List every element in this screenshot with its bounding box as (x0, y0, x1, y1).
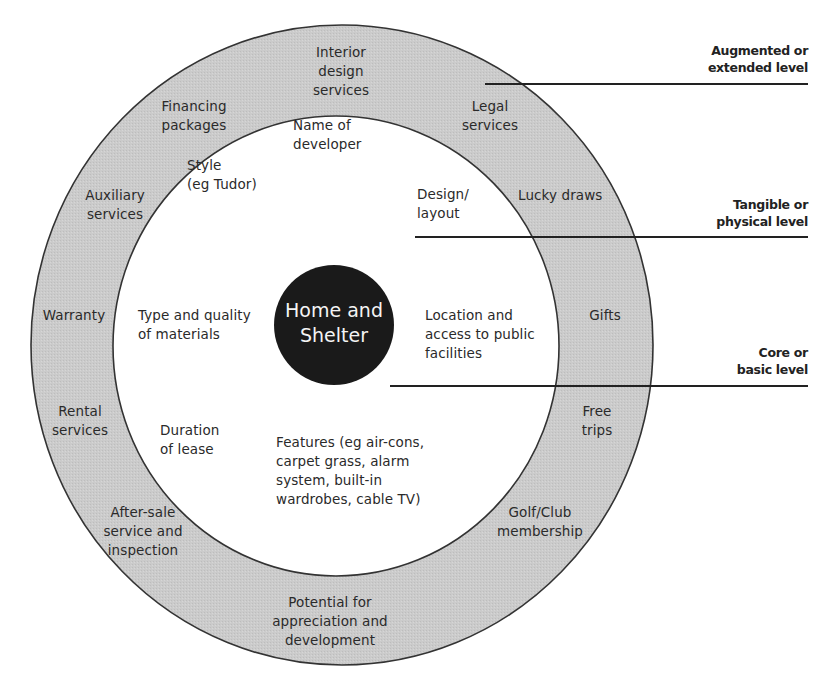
augmented-item-after-sale-service: After-sale service and inspection (103, 503, 182, 560)
tangible-item-location-access: Location and access to public facilities (425, 306, 535, 363)
item-line: Lucky draws (518, 186, 602, 205)
product-levels-diagram: Home and Shelter Name of developer Style… (0, 0, 838, 685)
augmented-item-financing-packages: Financing packages (161, 97, 226, 135)
item-line: membership (497, 522, 583, 541)
level-line: Augmented or (708, 42, 808, 59)
item-line: development (272, 631, 388, 650)
augmented-item-auxiliary-services: Auxiliary services (85, 186, 145, 224)
tangible-item-features: Features (eg air-cons, carpet grass, ala… (276, 433, 424, 509)
item-line: Golf/Club (497, 503, 583, 522)
item-line: inspection (103, 541, 182, 560)
tangible-item-style: Style (eg Tudor) (187, 156, 257, 194)
item-line: After-sale (103, 503, 182, 522)
augmented-item-lucky-draws: Lucky draws (518, 186, 602, 205)
augmented-item-potential-appreciation: Potential for appreciation and developme… (272, 593, 388, 650)
item-line: facilities (425, 344, 535, 363)
item-line: Type and quality (138, 306, 251, 325)
diagram-shapes (0, 0, 838, 685)
level-line: Tangible or (716, 196, 808, 213)
augmented-item-legal-services: Legal services (462, 97, 518, 135)
item-line: appreciation and (272, 612, 388, 631)
level-label-tangible: Tangible or physical level (716, 196, 808, 230)
tangible-item-name-of-developer: Name of developer (293, 116, 362, 154)
level-line: Core or (737, 344, 808, 361)
core-label: Home and Shelter (285, 298, 383, 348)
item-line: Interior (313, 43, 369, 62)
item-line: system, built-in (276, 471, 424, 490)
item-line: of lease (160, 440, 219, 459)
item-line: services (85, 205, 145, 224)
augmented-item-golf-club-membership: Golf/Club membership (497, 503, 583, 541)
item-line: Duration (160, 421, 219, 440)
level-label-augmented: Augmented or extended level (708, 42, 808, 76)
level-label-core: Core or basic level (737, 344, 808, 378)
item-line: carpet grass, alarm (276, 452, 424, 471)
item-line: packages (161, 116, 226, 135)
item-line: Design/ (417, 185, 469, 204)
item-line: services (462, 116, 518, 135)
item-line: design (313, 62, 369, 81)
item-line: Rental (52, 402, 108, 421)
item-line: (eg Tudor) (187, 175, 257, 194)
augmented-item-gifts: Gifts (589, 306, 621, 325)
item-line: Legal (462, 97, 518, 116)
tangible-item-design-layout: Design/ layout (417, 185, 469, 223)
item-line: Gifts (589, 306, 621, 325)
item-line: service and (103, 522, 182, 541)
item-line: Warranty (43, 306, 106, 325)
item-line: layout (417, 204, 469, 223)
item-line: access to public (425, 325, 535, 344)
tangible-item-type-quality-materials: Type and quality of materials (138, 306, 251, 344)
augmented-item-rental-services: Rental services (52, 402, 108, 440)
item-line: Name of (293, 116, 362, 135)
augmented-item-free-trips: Free trips (582, 402, 613, 440)
level-line: basic level (737, 361, 808, 378)
level-line: physical level (716, 213, 808, 230)
item-line: Style (187, 156, 257, 175)
item-line: Potential for (272, 593, 388, 612)
core-label-line1: Home and (285, 298, 383, 323)
item-line: trips (582, 421, 613, 440)
level-line: extended level (708, 59, 808, 76)
item-line: wardrobes, cable TV) (276, 490, 424, 509)
item-line: Free (582, 402, 613, 421)
item-line: developer (293, 135, 362, 154)
item-line: services (52, 421, 108, 440)
item-line: of materials (138, 325, 251, 344)
item-line: Auxiliary (85, 186, 145, 205)
item-line: Features (eg air-cons, (276, 433, 424, 452)
augmented-item-warranty: Warranty (43, 306, 106, 325)
item-line: Location and (425, 306, 535, 325)
item-line: services (313, 81, 369, 100)
core-label-line2: Shelter (285, 323, 383, 348)
tangible-item-duration-of-lease: Duration of lease (160, 421, 219, 459)
augmented-item-interior-design-services: Interior design services (313, 43, 369, 100)
item-line: Financing (161, 97, 226, 116)
